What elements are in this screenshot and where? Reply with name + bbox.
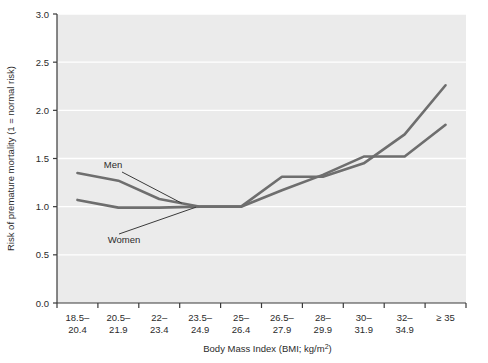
y-tick-label: 0.0 — [36, 298, 49, 309]
y-tick-label: 2.5 — [36, 57, 49, 68]
x-tick-label-line1: 22– — [151, 312, 168, 323]
x-tick-label-line1: 28– — [315, 312, 332, 323]
x-axis-title: Body Mass Index (BMI; kg/m2) — [203, 343, 332, 355]
x-tick-label-line1: ≥ 35 — [436, 312, 454, 323]
x-tick-label: 30–31.9 — [355, 312, 374, 335]
x-tick-label: 18.5–20.4 — [66, 312, 90, 335]
x-tick-label-line1: 26.5– — [270, 312, 294, 323]
x-tick-label-line1: 32– — [397, 312, 414, 323]
x-tick-label-line2: 24.9 — [191, 324, 210, 335]
x-tick-label-line2: 20.4 — [68, 324, 87, 335]
y-tick-label: 0.5 — [36, 249, 49, 260]
x-tick-label-line2: 26.4 — [232, 324, 251, 335]
annotation-men-label: Men — [104, 159, 122, 170]
x-tick-label: 26.5–27.9 — [270, 312, 294, 335]
annotation-women-label: Women — [108, 234, 141, 245]
y-tick-label: 1.0 — [36, 201, 49, 212]
x-tick-label-line2: 27.9 — [273, 324, 292, 335]
y-tick-label: 3.0 — [36, 9, 49, 20]
x-tick-label-line1: 25– — [233, 312, 250, 323]
x-tick-label: 22–23.4 — [150, 312, 169, 335]
y-tick-label: 2.0 — [36, 105, 49, 116]
chart-container: 0.00.51.01.52.02.53.0 18.5–20.420.5–21.9… — [0, 0, 488, 363]
x-tick-label-line1: 30– — [356, 312, 373, 323]
x-tick-label-line1: 23.5– — [188, 312, 212, 323]
x-tick-label: 23.5–24.9 — [188, 312, 212, 335]
x-tick-label: ≥ 35 — [436, 312, 454, 323]
x-tick-label: 32–34.9 — [395, 312, 414, 335]
x-tick-label-line1: 20.5– — [106, 312, 130, 323]
y-tick-label: 1.5 — [36, 153, 49, 164]
x-tick-label-line2: 31.9 — [355, 324, 374, 335]
mortality-bmi-line-chart: 0.00.51.01.52.02.53.0 18.5–20.420.5–21.9… — [0, 0, 488, 363]
x-tick-label-line2: 34.9 — [395, 324, 414, 335]
x-tick-label: 25–26.4 — [232, 312, 251, 335]
x-tick-label: 20.5–21.9 — [106, 312, 130, 335]
x-tick-label: 28–29.9 — [314, 312, 333, 335]
x-tick-label-line2: 23.4 — [150, 324, 169, 335]
x-tick-label-line2: 29.9 — [314, 324, 333, 335]
y-axis-title: Risk of premature mortality (1 = normal … — [5, 66, 16, 251]
x-tick-label-line1: 18.5– — [66, 312, 90, 323]
x-tick-label-line2: 21.9 — [109, 324, 128, 335]
x-axis-title-tail: ) — [329, 343, 332, 354]
x-axis-title-main: Body Mass Index (BMI; kg/m — [203, 343, 325, 354]
